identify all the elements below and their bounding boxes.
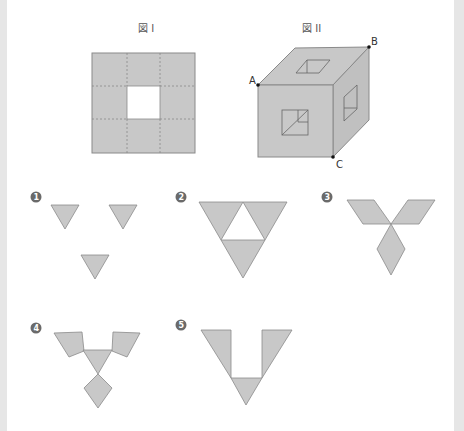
option-4-number: 4 bbox=[34, 324, 40, 333]
figure-1-title: 図 I bbox=[138, 23, 154, 34]
option-4[interactable]: 4 bbox=[31, 323, 141, 409]
option-1-triangle bbox=[109, 205, 137, 229]
point-c-dot bbox=[331, 155, 335, 159]
option-1-number: 1 bbox=[34, 193, 40, 202]
option-1-triangle bbox=[51, 205, 79, 229]
square-hole bbox=[127, 86, 160, 119]
figure-1: 図 I bbox=[92, 23, 195, 153]
option-3[interactable]: 3 bbox=[322, 192, 436, 276]
cube-front-face bbox=[258, 85, 333, 157]
figure-2: 図 II A B C bbox=[249, 23, 378, 170]
option-2[interactable]: 2 bbox=[176, 192, 288, 279]
option-5[interactable]: 5 bbox=[176, 320, 293, 406]
option-5-number: 5 bbox=[179, 321, 185, 330]
option-2-number: 2 bbox=[179, 193, 185, 202]
option-3-number: 3 bbox=[325, 193, 331, 202]
point-a-label: A bbox=[249, 75, 256, 86]
option-3-rhombus-bottom bbox=[377, 224, 405, 275]
option-5-triangle-left bbox=[201, 330, 231, 378]
option-4-center-triangle bbox=[83, 350, 112, 374]
figure-2-title: 図 II bbox=[302, 23, 321, 34]
option-1[interactable]: 1 bbox=[31, 192, 138, 280]
option-4-quad-left bbox=[54, 332, 84, 357]
option-5-triangle-right bbox=[262, 330, 292, 378]
option-3-rhombus-right bbox=[391, 200, 435, 224]
option-3-rhombus-left bbox=[347, 200, 391, 224]
point-c-label: C bbox=[336, 159, 343, 170]
diagram-canvas: 図 I 図 II bbox=[0, 0, 464, 431]
option-4-quad-right bbox=[112, 332, 140, 357]
point-a-dot bbox=[256, 83, 260, 87]
point-b-label: B bbox=[371, 36, 378, 47]
option-5-triangle-bottom bbox=[231, 378, 262, 405]
option-1-triangle bbox=[81, 255, 109, 279]
option-4-kite bbox=[84, 374, 112, 408]
